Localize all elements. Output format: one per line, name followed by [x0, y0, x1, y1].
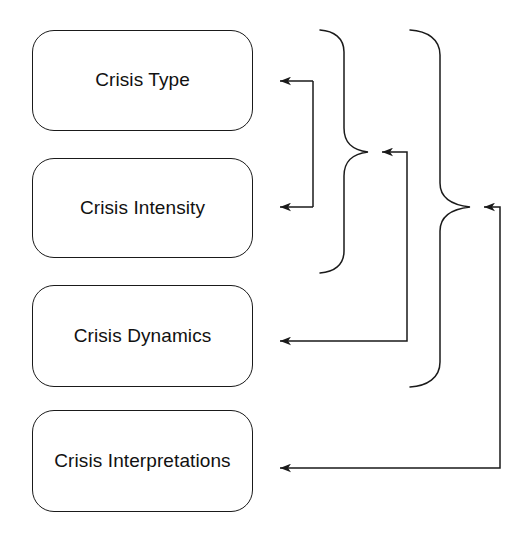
node-crisis-intensity-label: Crisis Intensity	[80, 197, 205, 220]
arrow-to-interpretations-connector	[280, 207, 500, 468]
node-crisis-interpretations-label: Crisis Interpretations	[54, 450, 230, 473]
node-crisis-intensity[interactable]: Crisis Intensity	[32, 158, 253, 258]
node-crisis-type-label: Crisis Type	[95, 69, 190, 92]
node-crisis-interpretations[interactable]: Crisis Interpretations	[32, 410, 253, 512]
node-crisis-type[interactable]: Crisis Type	[32, 30, 253, 131]
diagram-canvas: Crisis Type Crisis Intensity Crisis Dyna…	[0, 0, 530, 536]
node-crisis-dynamics-label: Crisis Dynamics	[74, 325, 212, 348]
node-crisis-dynamics[interactable]: Crisis Dynamics	[32, 285, 253, 387]
brace-outer-icon	[410, 30, 470, 387]
fork-to-type-and-intensity-connector	[280, 81, 313, 207]
brace-inner-icon	[320, 30, 368, 273]
